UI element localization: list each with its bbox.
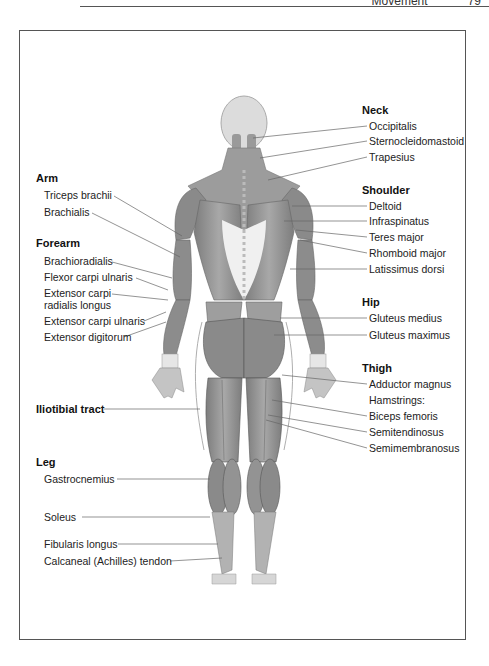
group-title-shoulder: Shoulder [362,184,410,196]
label-gluteus-medius: Gluteus medius [369,312,442,324]
group-title-iliotibial-tract: Iliotibial tract [36,403,104,415]
group-title-thigh: Thigh [362,362,392,374]
group-title-leg: Leg [36,456,56,468]
label-extensor-carpi-ulnaris: Extensor carpi ulnaris [44,315,145,327]
label-extensor-carpi-radialis-longus: Extensor carpi radialis longus [44,287,134,311]
label-brachioradialis: Brachioradialis [44,255,113,267]
label-semimembranosus: Semimembranosus [369,442,459,454]
group-title-arm: Arm [36,172,58,184]
label-latissimus-dorsi: Latissimus dorsi [369,263,444,275]
label-triceps-brachii: Triceps brachii [44,189,112,201]
label-soleus: Soleus [44,511,76,523]
label-brachialis: Brachialis [44,206,90,218]
label-infraspinatus: Infraspinatus [369,215,429,227]
label-rhomboid-major: Rhomboid major [369,247,446,259]
label-occipitalis: Occipitalis [369,120,417,132]
label-biceps-femoris: Biceps femoris [369,410,438,422]
label-semitendinosus: Semitendinosus [369,426,444,438]
label-teres-major: Teres major [369,231,424,243]
label-gluteus-maximus: Gluteus maximus [369,329,450,341]
label-flexor-carpi-ulnaris: Flexor carpi ulnaris [44,271,133,283]
head-icon [221,96,267,152]
label-gastrocnemius: Gastrocnemius [44,473,115,485]
label-extensor-digitorum: Extensor digitorum [44,331,132,343]
label-hamstrings: Hamstrings: [369,394,425,406]
label-calcaneal-tendon: Calcaneal (Achilles) tendon [44,555,172,567]
group-title-neck: Neck [362,104,388,116]
label-fibularis-longus: Fibularis longus [44,538,118,550]
label-sternocleidomastoid: Sternocleidomastoid [369,135,464,147]
group-title-hip: Hip [362,296,380,308]
label-deltoid: Deltoid [369,200,402,212]
label-trapesius: Trapesius [369,151,415,163]
label-adductor-magnus: Adductor magnus [369,378,451,390]
group-title-forearm: Forearm [36,237,80,249]
